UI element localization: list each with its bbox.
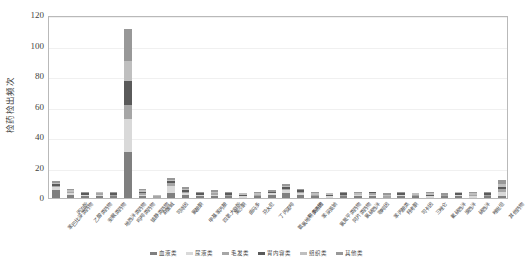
bar-column[interactable] — [153, 195, 160, 198]
bar-segment — [124, 29, 131, 61]
bar-segment — [52, 187, 59, 190]
legend-item[interactable]: 尿液类 — [186, 250, 213, 257]
bar-segment — [484, 195, 491, 197]
bar-column[interactable] — [469, 192, 476, 198]
legend-item[interactable]: 胃内容类 — [258, 250, 291, 257]
bar-column[interactable] — [211, 190, 218, 198]
x-tick-label: 曲马多 — [247, 201, 261, 216]
bar-segment — [211, 193, 218, 195]
bar-column[interactable] — [498, 180, 505, 198]
bar-segment — [469, 196, 476, 198]
legend-item[interactable]: 其他类 — [336, 250, 363, 257]
bar-segment — [182, 192, 189, 194]
y-tick-label: 60 — [18, 103, 44, 112]
bar-column[interactable] — [167, 178, 174, 198]
bar-segment — [96, 195, 103, 197]
bar-segment — [196, 193, 203, 195]
bar-segment — [81, 195, 88, 197]
bar-column[interactable] — [326, 193, 333, 198]
legend-swatch — [300, 252, 307, 255]
bar-segment — [110, 195, 117, 197]
bar-segment — [311, 195, 318, 197]
bar-segment — [96, 192, 103, 194]
bar-segment — [426, 193, 433, 195]
chart-legend: 血液类尿液类毛发类胃内容类组织类其他类 — [150, 250, 480, 261]
bar-segment — [397, 195, 404, 197]
bar-segment — [354, 195, 361, 197]
bar-column[interactable] — [412, 193, 419, 198]
bar-segment — [211, 196, 218, 198]
bar-segment — [469, 193, 476, 195]
bar-column[interactable] — [383, 193, 390, 198]
bar-column[interactable] — [268, 190, 275, 198]
bar-segment — [124, 81, 131, 105]
bar-segment — [196, 195, 203, 197]
bar-segment — [426, 195, 433, 197]
bar-segment — [340, 192, 347, 194]
bar-column[interactable] — [67, 189, 74, 198]
bar-segment — [52, 184, 59, 186]
bar-column[interactable] — [426, 192, 433, 198]
bar-segment — [182, 195, 189, 198]
bar-segment — [383, 195, 390, 197]
bar-segment — [326, 195, 333, 197]
bar-column[interactable] — [311, 192, 318, 198]
bar-segment — [354, 196, 361, 198]
bar-column[interactable] — [96, 192, 103, 198]
legend-label: 胃内容类 — [267, 250, 291, 257]
bar-segment — [52, 190, 59, 198]
bar-segment — [167, 178, 174, 180]
bar-segment — [139, 196, 146, 198]
bar-column[interactable] — [139, 189, 146, 198]
bar-segment — [167, 181, 174, 183]
bar-segment — [268, 190, 275, 192]
bar-segment — [340, 196, 347, 198]
bar-segment — [211, 195, 218, 197]
bar-segment — [311, 196, 318, 198]
legend-item[interactable]: 组织类 — [300, 250, 327, 257]
bar-column[interactable] — [484, 192, 491, 198]
legend-label: 毛发类 — [231, 250, 249, 257]
bar-segment — [369, 192, 376, 194]
x-tick-label: 唑吡坦 — [491, 201, 505, 216]
bar-segment — [225, 196, 232, 198]
bar-segment — [498, 196, 505, 198]
bar-column[interactable] — [354, 192, 361, 198]
bar-segment — [397, 193, 404, 195]
bar-column[interactable] — [397, 192, 404, 198]
bar-column[interactable] — [340, 192, 347, 198]
legend-label: 尿液类 — [195, 250, 213, 257]
bar-column[interactable] — [81, 192, 88, 198]
bar-segment — [340, 195, 347, 197]
bar-segment — [67, 195, 74, 198]
x-tick-label: 其他药物 — [507, 201, 525, 220]
bar-segment — [369, 196, 376, 198]
bar-column[interactable] — [124, 29, 131, 198]
bar-column[interactable] — [297, 189, 304, 198]
bar-segment — [211, 190, 218, 192]
bar-column[interactable] — [369, 192, 376, 198]
bar-column[interactable] — [455, 192, 462, 198]
bar-segment — [397, 196, 404, 198]
bar-segment — [484, 196, 491, 198]
bar-segment — [139, 195, 146, 197]
bar-segment — [239, 195, 246, 197]
bar-column[interactable] — [110, 192, 117, 198]
bar-column[interactable] — [196, 192, 203, 198]
legend-item[interactable]: 毛发类 — [222, 250, 249, 257]
bar-segment — [139, 192, 146, 194]
bar-column[interactable] — [441, 193, 448, 198]
bar-segment — [239, 193, 246, 195]
bar-column[interactable] — [254, 192, 261, 198]
legend-swatch — [186, 252, 193, 255]
bar-series-group — [49, 17, 507, 198]
bar-column[interactable] — [225, 192, 232, 198]
legend-item[interactable]: 血液类 — [150, 250, 177, 257]
bar-column[interactable] — [282, 184, 289, 198]
legend-swatch — [222, 252, 229, 255]
legend-swatch — [150, 252, 157, 255]
bar-segment — [498, 187, 505, 189]
bar-column[interactable] — [239, 193, 246, 198]
bar-column[interactable] — [182, 187, 189, 198]
bar-column[interactable] — [52, 181, 59, 198]
